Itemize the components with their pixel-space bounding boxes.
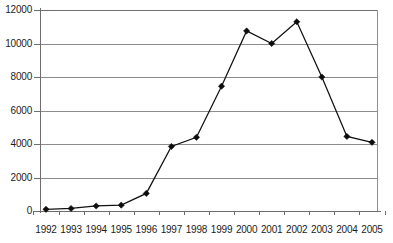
x-tick-9 — [259, 211, 260, 215]
gridline-4000 — [40, 144, 378, 145]
gridline-6000 — [40, 111, 378, 112]
x-axis-label-2005: 2005 — [361, 224, 382, 235]
y-axis-label-4000: 4000 — [11, 139, 32, 149]
x-axis-label-1999: 1999 — [211, 224, 232, 235]
x-tick-0 — [33, 211, 34, 215]
x-axis-label-1993: 1993 — [60, 224, 81, 235]
x-tick-12 — [334, 211, 335, 215]
gridline-10000 — [40, 44, 378, 45]
y-tick-4000 — [34, 144, 40, 145]
y-axis-label-8000: 8000 — [11, 72, 32, 82]
x-tick-6 — [184, 211, 185, 215]
x-tick-11 — [309, 211, 310, 215]
x-axis-label-1997: 1997 — [161, 224, 182, 235]
gridline-12000 — [40, 10, 378, 11]
x-tick-1 — [59, 211, 60, 215]
y-axis-label-10000: 10000 — [5, 39, 32, 49]
x-tick-4 — [134, 211, 135, 215]
x-tick-10 — [284, 211, 285, 215]
y-axis-label-12000: 12000 — [5, 5, 32, 15]
plot-right-border — [377, 10, 378, 212]
x-tick-2 — [84, 211, 85, 215]
x-axis-label-1994: 1994 — [85, 224, 106, 235]
x-axis-label-2000: 2000 — [236, 224, 257, 235]
x-tick-13 — [359, 211, 360, 215]
y-tick-2000 — [34, 178, 40, 179]
x-axis-label-1992: 1992 — [35, 224, 56, 235]
gridline-8000 — [40, 77, 378, 78]
x-tick-8 — [234, 211, 235, 215]
x-axis-label-2001: 2001 — [261, 224, 282, 235]
y-tick-8000 — [34, 77, 40, 78]
x-tick-3 — [109, 211, 110, 215]
y-tick-6000 — [34, 111, 40, 112]
x-tick-14 — [385, 211, 386, 215]
x-axis-label-1998: 1998 — [186, 224, 207, 235]
x-tick-5 — [159, 211, 160, 215]
y-axis-line — [40, 8, 41, 213]
y-axis-label-0: 0 — [27, 206, 32, 216]
plot-area — [40, 10, 378, 211]
line-chart: 12000 10000 8000 6000 4000 2000 0 199219… — [0, 0, 393, 243]
x-tick-7 — [209, 211, 210, 215]
y-axis-label-2000: 2000 — [11, 173, 32, 183]
x-axis-label-1995: 1995 — [110, 224, 131, 235]
y-tick-0 — [34, 211, 40, 212]
x-axis-label-2003: 2003 — [311, 224, 332, 235]
x-axis-label-2002: 2002 — [286, 224, 307, 235]
x-axis-label-1996: 1996 — [136, 224, 157, 235]
y-axis-label-6000: 6000 — [11, 106, 32, 116]
y-tick-10000 — [34, 44, 40, 45]
x-axis-label-2004: 2004 — [336, 224, 357, 235]
y-tick-12000 — [34, 10, 40, 11]
gridline-2000 — [40, 178, 378, 179]
